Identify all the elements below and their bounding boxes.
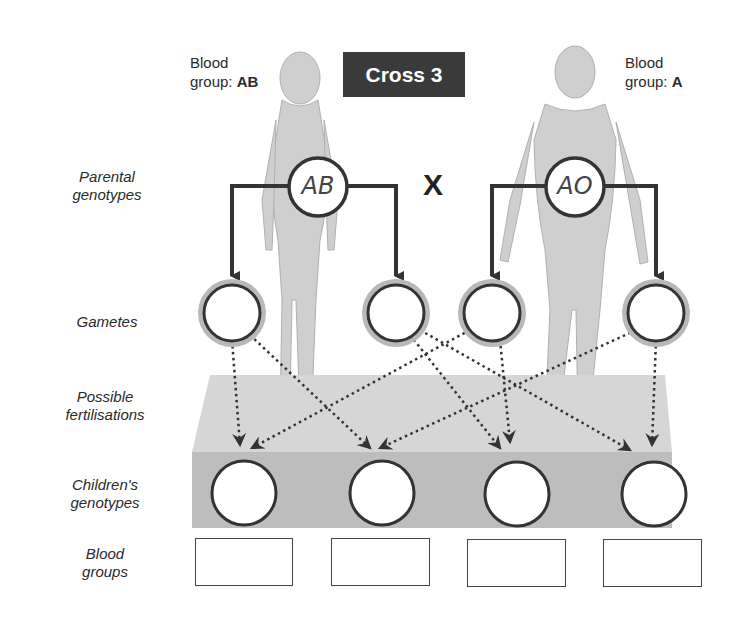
- child-genotype-slot-3[interactable]: [489, 466, 545, 522]
- gamete-slot-3[interactable]: [468, 289, 516, 337]
- mother-figure: [262, 52, 338, 420]
- row-label-parental-genotypes: Parental genotypes: [32, 168, 182, 204]
- gamete-slot-4[interactable]: [632, 289, 680, 337]
- gamete-slot-1[interactable]: [208, 289, 256, 337]
- row-label-line: fertilisations: [30, 406, 180, 424]
- child-blood-group-box-2[interactable]: [331, 538, 430, 586]
- row-label-line: Parental: [32, 168, 182, 186]
- father-figure: [500, 46, 648, 420]
- child-blood-group-box-3[interactable]: [467, 539, 566, 587]
- row-label-line: genotypes: [30, 494, 180, 512]
- child-genotype-slot-2[interactable]: [354, 465, 410, 521]
- gametes: [198, 279, 690, 347]
- row-label-gametes: Gametes: [32, 313, 182, 331]
- father-label-line2: group: A: [625, 72, 683, 91]
- cross-title: Cross 3: [343, 52, 465, 97]
- cross-symbol: X: [423, 170, 443, 200]
- mother-blood-group: AB: [237, 73, 259, 90]
- row-label-line: Children's: [30, 476, 180, 494]
- row-label-line: genotypes: [32, 186, 182, 204]
- father-blood-group-label: Blood group: A: [625, 53, 683, 91]
- child-blood-group-box-4[interactable]: [603, 539, 702, 587]
- row-label-possible-fertilisations: Possible fertilisations: [30, 388, 180, 424]
- mother-label-prefix: group:: [190, 73, 237, 90]
- father-blood-group: A: [672, 73, 683, 90]
- mother-blood-group-label: Blood group: AB: [190, 53, 258, 91]
- row-label-blood-groups: Blood groups: [30, 545, 180, 581]
- mother-genotype-text: AB: [289, 172, 347, 200]
- row-label-line: Blood: [30, 545, 180, 563]
- mother-label-line2: group: AB: [190, 72, 258, 91]
- row-label-line: groups: [30, 563, 180, 581]
- gamete-slot-2[interactable]: [372, 289, 420, 337]
- father-label-line1: Blood: [625, 53, 683, 72]
- row-label-line: Possible: [30, 388, 180, 406]
- child-genotype-slot-4[interactable]: [626, 466, 682, 522]
- child-genotype-slot-1[interactable]: [216, 465, 272, 521]
- row-label-childrens-genotypes: Children's genotypes: [30, 476, 180, 512]
- father-genotype-text: AO: [546, 172, 604, 200]
- mother-label-line1: Blood: [190, 53, 258, 72]
- father-label-prefix: group:: [625, 73, 672, 90]
- child-blood-group-box-1[interactable]: [195, 538, 293, 586]
